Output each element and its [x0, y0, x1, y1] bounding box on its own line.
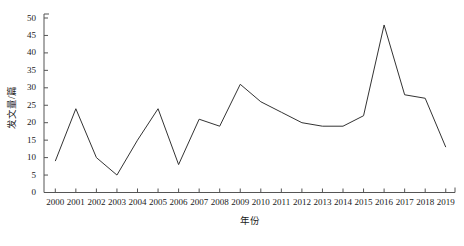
y-axis-tick-label: 15: [14, 136, 36, 145]
y-axis-tick-label: 5: [14, 171, 36, 180]
chart-plot-area: [0, 0, 464, 246]
y-axis-tick-label: 40: [14, 48, 36, 57]
x-axis-tick-label: 2019: [433, 198, 459, 207]
y-axis-tick-label: 10: [14, 153, 36, 162]
line-chart: 05101520253035404550 2000200120022003200…: [0, 0, 464, 246]
y-axis-tick-label: 45: [14, 31, 36, 40]
chart-tick-marks: [44, 18, 446, 193]
y-axis-title: 发文量/篇: [4, 87, 18, 130]
y-axis-tick-label: 35: [14, 66, 36, 75]
data-series-line: [55, 25, 445, 175]
x-axis-title: 年份: [240, 213, 260, 227]
y-axis-tick-label: 50: [14, 14, 36, 23]
y-axis-tick-label: 0: [14, 188, 36, 197]
